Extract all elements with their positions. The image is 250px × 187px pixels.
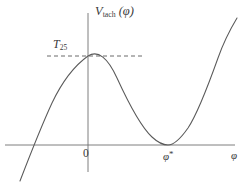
y-axis-symbol: V — [95, 4, 103, 18]
y-axis-subscript: tach — [103, 10, 116, 19]
phi-star-label: φ* — [163, 150, 174, 162]
origin-label: 0 — [83, 148, 89, 160]
level-symbol: T — [53, 37, 60, 51]
phi-star-superscript: * — [169, 149, 173, 159]
level-label-T25: T25 — [53, 38, 67, 52]
x-axis-label: φ — [231, 150, 237, 161]
figure-container: Vtach (φ) T25 0 φ* φ — [0, 0, 250, 187]
plot-canvas — [0, 0, 250, 187]
y-axis-argument: (φ) — [119, 4, 134, 18]
y-axis-label: Vtach (φ) — [95, 5, 134, 19]
level-subscript: 25 — [60, 43, 67, 52]
